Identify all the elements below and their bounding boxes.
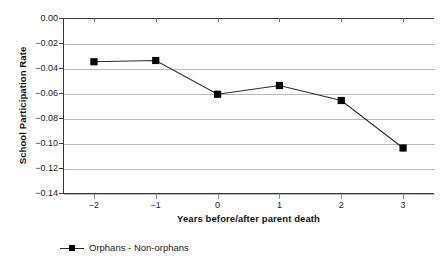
x-axis-tick-labels: −2−10123 — [0, 199, 447, 213]
y-tick-label: 0.00 — [24, 13, 58, 23]
y-tick-label: −0.04 — [24, 63, 58, 73]
y-tick-mark — [59, 68, 64, 69]
y-tick-label: −0.08 — [24, 113, 58, 123]
gridline — [64, 44, 435, 45]
x-axis-line — [63, 193, 434, 194]
gridline — [64, 69, 435, 70]
y-axis-tick-labels: 0.00−0.02−0.04−0.06−0.08−0.10−0.12−0.14 — [22, 0, 58, 269]
x-top-tick-mark — [279, 18, 280, 22]
y-tick-mark — [59, 93, 64, 94]
y-tick-mark — [59, 118, 64, 119]
x-tick-mark — [94, 194, 95, 199]
x-tick-label: −2 — [74, 199, 114, 211]
y-tick-mark — [59, 18, 64, 19]
y-tick-mark — [59, 143, 64, 144]
x-tick-label: −1 — [136, 199, 176, 211]
x-tick-mark — [403, 194, 404, 199]
x-top-tick-mark — [341, 18, 342, 22]
x-tick-mark — [156, 194, 157, 199]
gridline — [64, 119, 435, 120]
y-tick-label: −0.10 — [24, 138, 58, 148]
y-tick-mark — [59, 43, 64, 44]
gridline — [64, 94, 435, 95]
x-tick-mark — [341, 194, 342, 199]
x-tick-label: 2 — [321, 199, 361, 211]
x-tick-label: 1 — [259, 199, 299, 211]
legend-item-label: Orphans - Non-orphans — [89, 242, 189, 254]
legend-line-marker-icon — [60, 242, 84, 254]
x-top-tick-mark — [218, 18, 219, 22]
y-tick-label: −0.12 — [24, 163, 58, 173]
x-top-tick-mark — [94, 18, 95, 22]
chart-legend: Orphans - Non-orphans — [60, 241, 189, 255]
y-tick-label: −0.02 — [24, 38, 58, 48]
y-tick-mark — [59, 193, 64, 194]
x-tick-mark — [218, 194, 219, 199]
gridline — [64, 169, 435, 170]
y-tick-label: −0.14 — [24, 188, 58, 198]
x-top-tick-mark — [156, 18, 157, 22]
x-axis-title: Years before/after parent death — [63, 213, 434, 224]
y-tick-label: −0.06 — [24, 88, 58, 98]
y-tick-mark — [59, 168, 64, 169]
chart-container: School Participation Rate 0.00−0.02−0.04… — [0, 0, 447, 269]
plot-area — [63, 18, 434, 193]
gridline — [64, 194, 435, 195]
gridline — [64, 144, 435, 145]
x-tick-mark — [279, 194, 280, 199]
x-tick-label: 3 — [383, 199, 423, 211]
x-top-tick-mark — [403, 18, 404, 22]
x-tick-label: 0 — [198, 199, 238, 211]
